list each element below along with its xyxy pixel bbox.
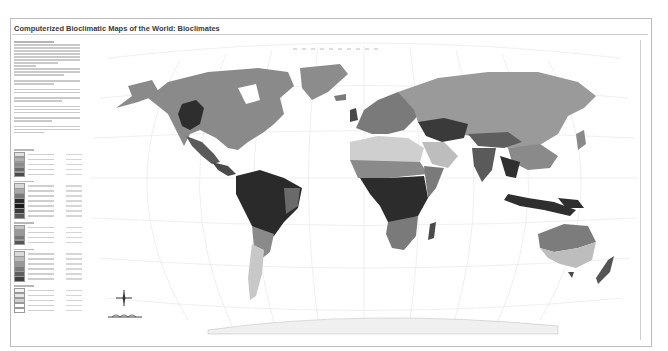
antarctica: [208, 318, 558, 334]
patagonia: [248, 244, 264, 300]
legend-panel: [12, 38, 84, 338]
legend-item: [14, 309, 84, 313]
legend-swatch: [14, 240, 25, 246]
legend-item: [14, 241, 84, 245]
scale-bar-icon: [108, 313, 142, 319]
description-text: [14, 64, 80, 135]
tasmania: [568, 272, 574, 278]
uk: [350, 108, 358, 122]
authors-text: [14, 40, 80, 65]
iceland: [334, 94, 346, 101]
madagascar: [428, 222, 436, 240]
legend-item: [14, 277, 84, 281]
right-axis: [640, 40, 641, 340]
legend-item: [14, 173, 84, 177]
greenland: [300, 64, 348, 100]
alaska: [116, 80, 160, 108]
title-divider: [12, 34, 648, 35]
legend-swatch: [14, 308, 25, 314]
india: [472, 148, 496, 182]
legend-swatch: [14, 172, 25, 178]
legend-swatch: [14, 276, 25, 282]
mexico: [186, 136, 220, 164]
sahara: [350, 136, 424, 164]
central-america: [212, 162, 236, 176]
arabia: [422, 142, 458, 168]
legend-swatch: [14, 213, 25, 219]
sahel: [350, 160, 428, 178]
legend-item: [14, 214, 84, 218]
north-arrow-icon: [116, 290, 132, 306]
page-title: Computerized Bioclimatic Maps of the Wor…: [14, 24, 220, 33]
world-map: [88, 38, 640, 338]
japan: [576, 130, 586, 150]
